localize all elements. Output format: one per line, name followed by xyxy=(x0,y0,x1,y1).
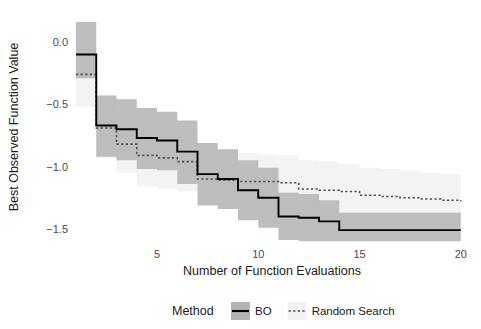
y-tick-label: 0.0 xyxy=(53,36,68,48)
legend-title: Method xyxy=(172,304,214,318)
y-tick-label: −0.5 xyxy=(46,98,68,110)
x-tick-label: 10 xyxy=(252,248,264,260)
x-tick-label: 20 xyxy=(455,248,467,260)
x-tick-label: 15 xyxy=(353,248,365,260)
legend-label-bo[interactable]: BO xyxy=(255,305,272,317)
y-axis-title: Best Observed Function Value xyxy=(7,43,21,212)
y-tick-label: −1.5 xyxy=(46,223,68,235)
x-tick-label: 5 xyxy=(154,248,160,260)
y-tick-label: −1.0 xyxy=(46,161,68,173)
legend-label-random-search[interactable]: Random Search xyxy=(312,305,395,317)
x-axis-title: Number of Function Evaluations xyxy=(183,264,361,278)
chart-svg: 0.0−0.5−1.0−1.5 5101520 Best Observed Fu… xyxy=(0,0,481,329)
chart-container: 0.0−0.5−1.0−1.5 5101520 Best Observed Fu… xyxy=(0,0,481,329)
